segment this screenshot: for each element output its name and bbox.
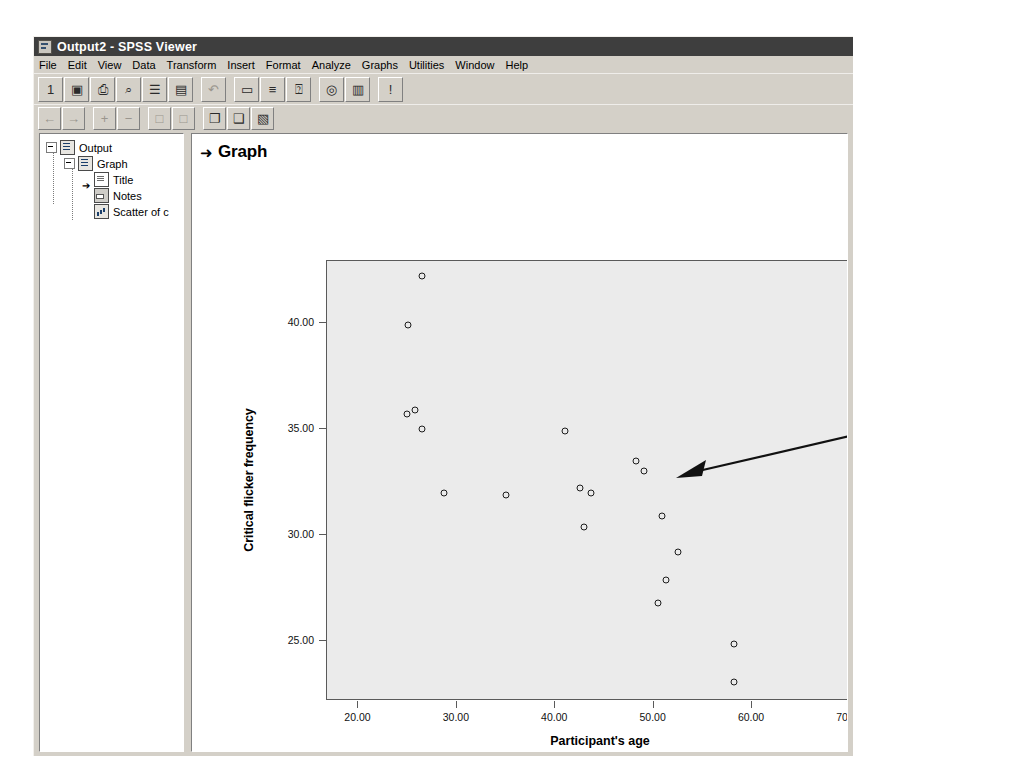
- notes-icon: [94, 188, 109, 203]
- undo-icon: ↶: [201, 77, 226, 102]
- outline-toolbar: ←→+−□□❐❑▧: [34, 104, 853, 131]
- scatter-point: [503, 491, 510, 498]
- scatter-point: [580, 523, 587, 530]
- promote-icon[interactable]: ≡: [260, 77, 285, 102]
- scatter-point: [404, 321, 411, 328]
- x-axis-tick-label: 20.00: [344, 711, 370, 723]
- output-doc-icon: [60, 140, 75, 155]
- show-results-icon[interactable]: ❐: [203, 107, 226, 130]
- forward-icon-glyph: →: [67, 112, 80, 125]
- menu-item-insert[interactable]: Insert: [227, 59, 255, 71]
- graph-heading: ➜ Graph: [200, 142, 267, 162]
- scatter-point: [654, 600, 661, 607]
- go-to-data-icon-glyph: ▥: [352, 83, 364, 96]
- export-icon-glyph: ☰: [149, 83, 161, 96]
- window-title: Output2 - SPSS Viewer: [57, 40, 197, 54]
- scatter-point: [441, 489, 448, 496]
- tree-expander-minus-icon[interactable]: [46, 142, 57, 153]
- page-title: Graph: [218, 142, 267, 162]
- x-axis-tick-label: 60.00: [738, 711, 764, 723]
- menu-item-analyze[interactable]: Analyze: [312, 59, 351, 71]
- print-icon-glyph: ⎙: [98, 83, 108, 96]
- menu-bar: FileEditViewDataTransformInsertFormatAna…: [34, 56, 853, 73]
- tree-connector: [72, 164, 73, 220]
- forward-icon: →: [62, 107, 85, 130]
- x-axis-tick: [456, 701, 457, 708]
- sidebar-item-scatter-of-c[interactable]: Scatter of c: [82, 204, 169, 219]
- collapse-icon: □: [172, 107, 195, 130]
- use-sets-icon[interactable]: ◎: [319, 77, 344, 102]
- promote-plus-icon-glyph: +: [101, 112, 109, 125]
- y-axis-tick: [319, 534, 326, 535]
- x-axis-tick-label: 40.00: [541, 711, 567, 723]
- x-axis-title: Participant's age: [550, 734, 650, 748]
- expand-icon-glyph: □: [156, 112, 164, 125]
- y-axis-tick-label: 40.00: [288, 316, 314, 328]
- insert-object-icon-glyph: ▤: [175, 83, 187, 96]
- print-icon[interactable]: ⎙: [90, 77, 115, 102]
- hide-results-icon[interactable]: ❑: [227, 107, 250, 130]
- pane-splitter[interactable]: [185, 133, 190, 752]
- outline-pane[interactable]: OutputGraph➔TitleNotesScatter of c: [39, 133, 184, 752]
- print-preview-icon[interactable]: ⌕: [116, 77, 141, 102]
- sidebar-item-graph[interactable]: Graph: [64, 156, 128, 171]
- scatter-point: [731, 678, 738, 685]
- y-axis-tick: [319, 428, 326, 429]
- spss-viewer-window: Output2 - SPSS Viewer FileEditViewDataTr…: [33, 36, 853, 756]
- toolbar-separator: [196, 107, 203, 130]
- y-axis-title: Critical flicker frequency: [242, 408, 256, 551]
- toolbar-separator: [227, 78, 234, 101]
- scatter-point: [663, 576, 670, 583]
- sidebar-item-label: Output: [79, 142, 112, 154]
- scatter-point: [640, 468, 647, 475]
- save-icon-glyph: ▣: [71, 83, 83, 96]
- scatter-point: [731, 640, 738, 647]
- menu-item-data[interactable]: Data: [132, 59, 155, 71]
- x-axis-tick: [751, 701, 752, 708]
- go-to-data-icon[interactable]: ▥: [345, 77, 370, 102]
- sidebar-item-output[interactable]: Output: [46, 140, 112, 155]
- title-bar: Output2 - SPSS Viewer: [34, 37, 853, 56]
- scatter-point: [419, 425, 426, 432]
- y-axis-tick-label: 25.00: [288, 634, 314, 646]
- menu-item-file[interactable]: File: [39, 59, 57, 71]
- menu-item-format[interactable]: Format: [266, 59, 301, 71]
- graph-doc-icon: [78, 156, 93, 171]
- output-content-pane[interactable]: ➜ Graph Critical flicker frequency Parti…: [191, 133, 848, 752]
- scatter-point: [562, 428, 569, 435]
- sidebar-item-notes[interactable]: Notes: [82, 188, 142, 203]
- sidebar-item-label: Title: [113, 174, 133, 186]
- demote-minus-icon: −: [117, 107, 140, 130]
- sidebar-item-title[interactable]: ➔Title: [82, 172, 133, 187]
- menu-item-window[interactable]: Window: [455, 59, 494, 71]
- insert-object-icon[interactable]: ▤: [168, 77, 193, 102]
- tree-expander-minus-icon[interactable]: [64, 158, 75, 169]
- y-axis-tick-label: 35.00: [288, 422, 314, 434]
- open-file-icon[interactable]: ὜1: [38, 77, 63, 102]
- chart-icon: [94, 204, 109, 219]
- scatter-point: [587, 489, 594, 496]
- menu-item-help[interactable]: Help: [505, 59, 528, 71]
- insert-heading-icon-glyph: ▧: [257, 112, 269, 125]
- toolbar-separator: [141, 107, 148, 130]
- export-icon[interactable]: ☰: [142, 77, 167, 102]
- save-icon[interactable]: ▣: [64, 77, 89, 102]
- menu-item-utilities[interactable]: Utilities: [409, 59, 444, 71]
- menu-item-transform[interactable]: Transform: [167, 59, 217, 71]
- print-preview-icon-glyph: ⌕: [125, 83, 132, 96]
- sidebar-item-label: Graph: [97, 158, 128, 170]
- scatter-point: [675, 549, 682, 556]
- scatter-point: [403, 411, 410, 418]
- menu-item-graphs[interactable]: Graphs: [362, 59, 398, 71]
- y-axis-tick: [319, 640, 326, 641]
- variables-icon[interactable]: ⍰: [286, 77, 311, 102]
- help-pointer-icon-glyph: !: [389, 83, 393, 96]
- help-pointer-icon[interactable]: !: [378, 77, 403, 102]
- toolbar-separator: [86, 107, 93, 130]
- show-hide-icon[interactable]: ▭: [234, 77, 259, 102]
- main-toolbar: ὜1▣⎙⌕☰▤↶▭≡⍰◎▥!: [34, 73, 853, 104]
- menu-item-edit[interactable]: Edit: [68, 59, 87, 71]
- menu-item-view[interactable]: View: [98, 59, 122, 71]
- insert-heading-icon[interactable]: ▧: [251, 107, 274, 130]
- show-results-icon-glyph: ❐: [209, 112, 221, 125]
